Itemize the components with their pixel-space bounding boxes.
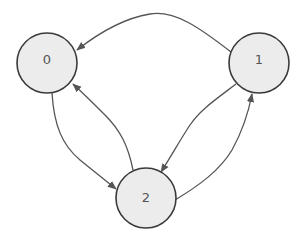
node-0-label: 0	[43, 52, 51, 67]
edge-2-to-1	[175, 94, 252, 200]
node-2-label: 2	[142, 190, 150, 205]
node-1-label: 1	[255, 52, 263, 67]
edge-0-to-2	[52, 93, 116, 189]
edge-2-to-0	[73, 84, 133, 170]
node-1[interactable]: 1	[229, 33, 289, 93]
edge-1-to-0	[77, 13, 231, 52]
state-diagram: 0 1 2	[0, 0, 302, 245]
node-0[interactable]: 0	[17, 33, 77, 93]
edge-1-to-2	[161, 84, 236, 172]
node-2[interactable]: 2	[116, 168, 176, 228]
